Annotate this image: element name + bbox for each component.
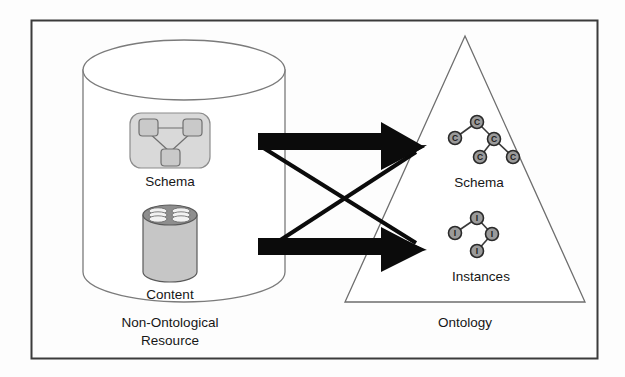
instances-tree-node-letter: I (454, 228, 456, 238)
schema-tree-node-letter: C (477, 152, 483, 162)
schema-block-label: Schema (145, 174, 195, 189)
non-ontological-resource-caption-line2: Resource (141, 333, 199, 348)
content-block-label: Content (146, 287, 194, 302)
schema-tree-node: C (471, 116, 484, 129)
instances-tree-node-letter: I (476, 246, 478, 256)
instances-tree-node: I (486, 228, 499, 241)
schema-tree-node-letter: C (474, 117, 480, 127)
schema-tree-node: C (507, 151, 520, 164)
schema-tree-node-letter: C (510, 152, 516, 162)
instances-tree-node-letter: I (491, 229, 493, 239)
schema-tree-node-letter: C (491, 134, 497, 144)
ontology-instances-label: Instances (452, 269, 510, 284)
instances-tree-node: I (471, 212, 484, 225)
content-disc-stack (172, 208, 190, 222)
schema-tree-node: C (449, 132, 462, 145)
diagram-svg: Schema Content Non-Ontological Resource (0, 0, 625, 377)
schema-block[interactable] (130, 113, 210, 168)
content-disc-stack (149, 208, 167, 222)
schema-tree-node-letter: C (452, 133, 458, 143)
ontology-schema-label: Schema (454, 175, 504, 190)
non-ontological-resource-caption-line1: Non-Ontological (122, 315, 219, 330)
cylinder-top-ellipse (83, 40, 285, 100)
content-block[interactable] (143, 205, 197, 282)
schema-tree-node: C (488, 133, 501, 146)
instances-tree-node-letter: I (476, 213, 478, 223)
schema-block-node (161, 149, 180, 166)
instances-tree-node: I (471, 245, 484, 258)
schema-block-node (139, 119, 158, 136)
schema-block-node (183, 119, 202, 136)
schema-tree-node: C (474, 151, 487, 164)
instances-tree-node: I (449, 227, 462, 240)
figure-canvas: Schema Content Non-Ontological Resource (0, 0, 625, 377)
ontology-caption: Ontology (438, 315, 492, 330)
